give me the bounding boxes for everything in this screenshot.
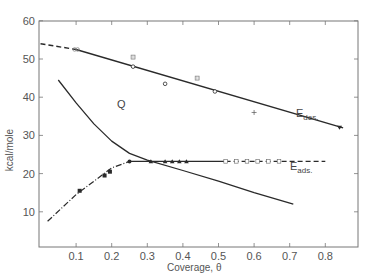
filled-square-marker (78, 189, 82, 193)
hatched-square-marker (131, 55, 135, 59)
open-square-marker (224, 160, 228, 164)
open-circle-marker (163, 82, 167, 86)
filled-circle-marker (128, 159, 132, 163)
chart: 0.10.20.30.40.50.60.70.8102030405060 Q E… (0, 0, 374, 278)
x-tick-label: 0.4 (175, 250, 190, 262)
x-tick-label: 0.2 (104, 250, 119, 262)
y-tick-label: 10 (23, 206, 35, 218)
edes-dashed-line (41, 44, 77, 50)
y-axis-title: kcal/mole (4, 128, 15, 171)
filled-square-marker (108, 170, 112, 174)
series-layer (41, 44, 344, 222)
curve-label-edes-sub: des. (303, 113, 318, 122)
filled-square-marker (103, 174, 107, 178)
open-square-marker (256, 160, 260, 164)
curve-label-q: Q (117, 98, 126, 110)
y-tick-label: 30 (23, 129, 35, 141)
x-axis-title: Coverage, θ (167, 262, 222, 273)
open-circle-marker (213, 90, 217, 94)
open-square-marker (267, 160, 271, 164)
curve-label-edes: Edes. (296, 107, 318, 122)
q-curve (58, 80, 293, 204)
y-tick-label: 40 (23, 91, 35, 103)
curve-label-eads-main: E (290, 160, 297, 172)
curve-label-edes-main: E (296, 107, 303, 119)
x-tick-label: 0.3 (140, 250, 155, 262)
eads-rising-line (48, 161, 130, 221)
y-tick-label: 50 (23, 53, 35, 65)
x-tick-label: 0.1 (68, 250, 83, 262)
open-square-marker (245, 160, 249, 164)
hatched-square-marker (195, 76, 199, 80)
x-tick-label: 0.7 (282, 250, 297, 262)
x-tick-label: 0.8 (318, 250, 333, 262)
x-tick-label: 0.6 (246, 250, 261, 262)
open-square-marker (235, 160, 239, 164)
plot-frame (39, 21, 358, 247)
open-square-marker (277, 160, 281, 164)
open-circle-marker (131, 65, 135, 69)
y-tick-label: 20 (23, 168, 35, 180)
plot-border (39, 21, 358, 247)
y-tick-label: 60 (23, 15, 35, 27)
curve-label-eads-sub: ads. (297, 166, 312, 175)
x-tick-label: 0.5 (211, 250, 226, 262)
axis-ticks: 0.10.20.30.40.50.60.70.8102030405060 (23, 15, 358, 262)
curve-label-eads: Eads. (290, 160, 312, 175)
